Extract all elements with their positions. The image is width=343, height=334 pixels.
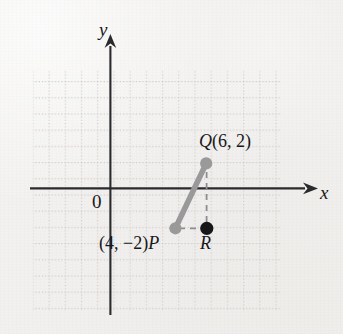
point-q-label: Q(6, 2)	[199, 132, 251, 150]
x-axis-label: x	[320, 183, 328, 202]
coordinate-plot	[0, 0, 343, 334]
y-axis-label: y	[99, 20, 107, 39]
point-p-label: (4, −2)P	[99, 234, 159, 252]
point-r-name: R	[200, 233, 211, 253]
grid-lines	[33, 70, 281, 311]
point-p-marker	[169, 222, 181, 234]
point-q-marker	[200, 157, 212, 169]
point-r-label: R	[200, 234, 211, 252]
x-axis-arrowhead	[303, 183, 318, 195]
point-p-coords: (4, −2)	[99, 233, 148, 253]
point-q-coords: (6, 2)	[212, 131, 251, 151]
origin-label: 0	[92, 192, 102, 211]
point-p-name: P	[148, 233, 159, 253]
point-q-name: Q	[199, 131, 212, 151]
coordinate-plane-figure: y x 0 Q(6, 2) (4, −2)P R	[0, 0, 343, 334]
